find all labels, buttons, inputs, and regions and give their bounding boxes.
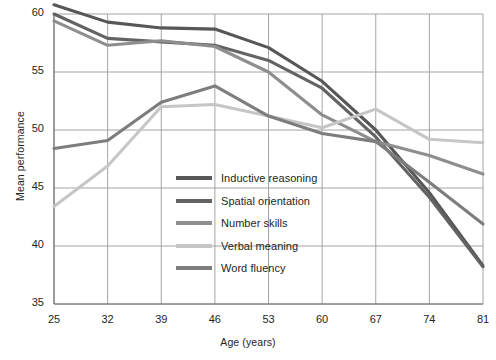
x-tick-label: 39	[146, 313, 176, 325]
y-axis-label: Mean performance	[14, 96, 26, 216]
legend-item: Number skills	[176, 212, 317, 235]
legend-swatch-icon	[176, 221, 212, 225]
legend-label: Verbal meaning	[221, 240, 298, 252]
x-tick-label: 32	[93, 313, 123, 325]
x-tick-label: 53	[254, 313, 284, 325]
legend-item: Verbal meaning	[176, 235, 317, 258]
legend-label: Spatial orientation	[221, 195, 310, 207]
y-tick-label: 40	[14, 238, 44, 250]
y-tick-label: 60	[14, 6, 44, 18]
x-tick-label: 67	[361, 313, 391, 325]
y-tick-label: 35	[14, 296, 44, 308]
legend-swatch-icon	[176, 176, 212, 180]
legend-label: Inductive reasoning	[221, 172, 317, 184]
y-tick-label: 50	[14, 122, 44, 134]
legend-swatch-icon	[176, 199, 212, 203]
chart-legend: Inductive reasoningSpatial orientationNu…	[176, 167, 317, 280]
legend-item: Word fluency	[176, 257, 317, 280]
y-tick-label: 55	[14, 64, 44, 76]
x-tick-label: 74	[414, 313, 444, 325]
legend-swatch-icon	[176, 266, 212, 270]
chart-figure: Mean performance Age (years) 35404550556…	[0, 0, 496, 360]
x-axis-label: Age (years)	[0, 336, 496, 348]
legend-label: Word fluency	[221, 262, 286, 274]
x-tick-label: 25	[39, 313, 69, 325]
x-tick-label: 46	[200, 313, 230, 325]
legend-label: Number skills	[221, 217, 288, 229]
legend-item: Inductive reasoning	[176, 167, 317, 190]
x-tick-label: 60	[307, 313, 337, 325]
y-tick-label: 45	[14, 180, 44, 192]
legend-swatch-icon	[176, 244, 212, 248]
x-tick-label: 81	[468, 313, 496, 325]
legend-item: Spatial orientation	[176, 190, 317, 213]
